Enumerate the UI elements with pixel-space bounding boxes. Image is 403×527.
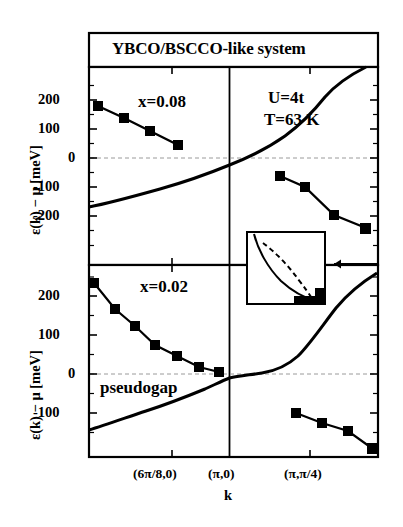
pseudogap-label: pseudogap <box>100 378 177 398</box>
xaxis-title: k <box>224 487 232 504</box>
chart-canvas <box>0 0 403 527</box>
inset-background <box>247 232 325 304</box>
lower-doping-label: x=0.02 <box>140 277 188 297</box>
lower-yaxis-title: ε(k) − μ [meV] <box>27 350 44 440</box>
upper-ytick-100: 100 <box>38 120 60 137</box>
xtick-label-6pi8: (6π/8,0) <box>133 466 177 482</box>
xtick-label-pi0: (π,0) <box>208 466 235 482</box>
xtick-label-pi-pi4: (π,π/4) <box>284 466 322 482</box>
upper-ytick-200: 200 <box>38 91 60 108</box>
figure-root: YBCO/BSCCO-like system 200 100 0 -100 -2… <box>0 0 403 527</box>
lower-ytick-100: 100 <box>38 326 60 343</box>
annotation-T: T=63 K <box>264 110 320 130</box>
upper-doping-label: x=0.08 <box>138 92 186 112</box>
annotation-U: U=4t <box>268 88 304 108</box>
lower-panel-frame <box>89 265 378 457</box>
lower-ytick-0: 0 <box>68 365 75 382</box>
upper-yaxis-title: ε(k) − μ [meV] <box>27 145 44 235</box>
figure-title: YBCO/BSCCO-like system <box>112 39 305 59</box>
upper-panel-frame <box>89 67 378 265</box>
inset-bottom-bar-marker <box>294 296 325 304</box>
upper-ytick-0: 0 <box>68 149 75 166</box>
lower-ytick-200: 200 <box>38 287 60 304</box>
